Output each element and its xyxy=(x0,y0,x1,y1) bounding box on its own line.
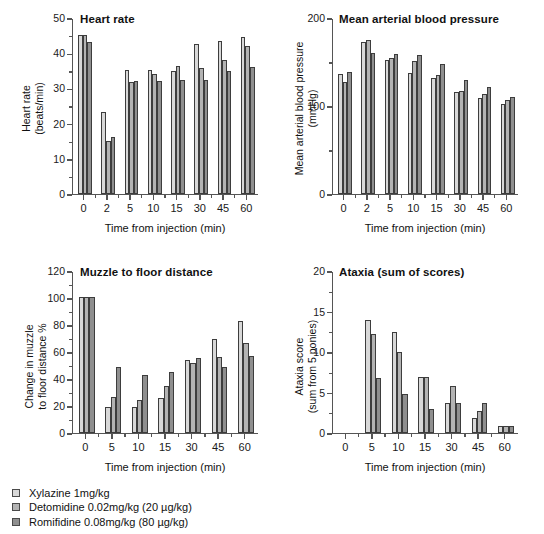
x-axis-tick-label: 0 xyxy=(341,202,347,214)
y-axis-tick-label: 40 xyxy=(53,373,65,386)
x-axis-tick-label: 15 xyxy=(159,441,171,453)
x-axis-tick-label: 30 xyxy=(194,202,206,214)
y-axis-tick-mark xyxy=(329,332,332,333)
bar xyxy=(249,356,254,433)
y-axis-label-ataxia: Ataxia score (sum from 5 ponies) xyxy=(293,305,318,429)
y-axis-tick-mark xyxy=(69,420,72,421)
x-axis-tick-label: 45 xyxy=(212,441,224,453)
x-axis-tick-mark xyxy=(217,434,218,439)
x-axis-tick-mark xyxy=(358,434,359,437)
x-axis-tick-mark xyxy=(138,434,139,439)
y-axis-tick-mark xyxy=(69,71,72,72)
x-axis-tick-label: 45 xyxy=(472,441,484,453)
bar xyxy=(116,367,121,433)
x-axis-tick-mark xyxy=(366,195,367,200)
y-axis-tick-label: 10 xyxy=(53,153,65,166)
bars-container-muzzle-to-floor xyxy=(73,272,258,433)
legend-swatch-romifidine xyxy=(12,518,20,526)
plot-area-muzzle-to-floor: 020406080100120051015304560 xyxy=(72,272,258,434)
y-axis-tick-label: 40 xyxy=(53,47,65,60)
y-axis-tick-mark xyxy=(327,352,332,353)
bar-group xyxy=(105,272,121,433)
y-axis-tick-label: 50 xyxy=(53,12,65,25)
x-axis-tick-mark xyxy=(448,195,449,198)
legend-item: Detomidine 0.02mg/kg (20 µg/kg) xyxy=(12,500,192,515)
bar-group xyxy=(361,19,375,194)
y-axis-tick-mark xyxy=(327,433,332,434)
bar-group xyxy=(79,272,95,433)
x-axis-tick-label: 10 xyxy=(407,202,419,214)
x-axis-tick-mark xyxy=(151,434,152,437)
x-axis-tick-mark xyxy=(384,434,385,437)
bars-container-blood-pressure xyxy=(333,19,518,194)
x-axis-tick-mark xyxy=(222,195,223,200)
bar-group xyxy=(241,19,255,194)
bar xyxy=(347,72,352,193)
bar-group xyxy=(78,19,92,194)
legend-label-romifidine: Romifidine 0.08mg/kg (80 µg/kg) xyxy=(29,516,188,528)
x-axis-tick-mark xyxy=(389,195,390,200)
bar-group xyxy=(185,272,201,433)
y-axis-tick-label: 20 xyxy=(53,118,65,131)
x-axis-tick-mark xyxy=(436,195,437,200)
bar xyxy=(157,81,162,194)
y-axis-tick-mark xyxy=(69,106,72,107)
legend-label-xylazine: Xylazine 1mg/kg xyxy=(29,487,110,499)
bar-group xyxy=(472,272,488,433)
x-axis-tick-label: 30 xyxy=(454,202,466,214)
x-axis-tick-mark xyxy=(343,195,344,200)
bar xyxy=(89,297,94,433)
y-axis-tick-mark xyxy=(67,352,72,353)
bar xyxy=(227,71,232,193)
bar-group xyxy=(212,272,228,433)
x-axis-tick-label: 0 xyxy=(342,441,348,453)
x-axis-tick-mark xyxy=(83,195,84,200)
y-axis-tick-mark xyxy=(67,406,72,407)
bar-group xyxy=(158,272,174,433)
bar xyxy=(429,409,434,432)
plot-area-heart-rate: 010203040500251015304560 xyxy=(72,19,258,195)
y-axis-tick-label: 200 xyxy=(307,12,325,25)
bar xyxy=(222,367,227,433)
plot-area-blood-pressure: 01002000251015304560 xyxy=(332,19,518,195)
y-axis-tick-mark xyxy=(327,312,332,313)
legend-item: Xylazine 1mg/kg xyxy=(12,486,192,501)
x-axis-label-blood-pressure: Time from injection (min) xyxy=(332,222,518,234)
y-axis-tick-mark xyxy=(327,393,332,394)
y-axis-tick-mark xyxy=(67,194,72,195)
x-axis-tick-label: 0 xyxy=(81,202,87,214)
x-axis-tick-mark xyxy=(246,195,247,200)
x-axis-tick-mark xyxy=(191,434,192,439)
x-axis-tick-mark xyxy=(95,195,96,198)
x-axis-tick-label: 5 xyxy=(127,202,133,214)
legend-label-detomidine: Detomidine 0.02mg/kg (20 µg/kg) xyxy=(29,501,192,513)
chart-panel-muzzle-to-floor: Muzzle to floor distance Change in muzzl… xyxy=(0,258,272,483)
bar-group xyxy=(339,272,355,433)
y-axis-label-line1: Mean arterial blood pressure xyxy=(293,34,306,184)
bar-group xyxy=(338,19,352,194)
bar-group xyxy=(418,272,434,433)
x-axis-tick-mark xyxy=(371,434,372,439)
bar xyxy=(509,426,514,432)
y-axis-tick-label: 0 xyxy=(319,188,325,201)
x-axis-tick-mark xyxy=(129,195,130,200)
x-axis-label-ataxia: Time from injection (min) xyxy=(332,461,518,473)
x-axis-tick-mark xyxy=(438,434,439,437)
bar xyxy=(196,358,201,432)
x-axis-tick-mark xyxy=(482,195,483,200)
x-axis-tick-label: 30 xyxy=(445,441,457,453)
y-axis-tick-label: 0 xyxy=(59,188,65,201)
x-axis-tick-mark xyxy=(494,195,495,198)
y-axis-tick-mark xyxy=(69,393,72,394)
x-axis-tick-mark xyxy=(188,195,189,198)
y-axis-tick-mark xyxy=(67,159,72,160)
x-axis-tick-label: 60 xyxy=(499,441,511,453)
x-axis-tick-label: 5 xyxy=(109,441,115,453)
y-axis-tick-mark xyxy=(69,36,72,37)
figure-legend: Xylazine 1mg/kg Detomidine 0.02mg/kg (20… xyxy=(12,486,192,530)
x-axis-tick-mark xyxy=(398,434,399,439)
bar-group xyxy=(431,19,445,194)
x-axis-tick-label: 2 xyxy=(104,202,110,214)
chart-panel-ataxia: Ataxia (sum of scores) Ataxia score (sum… xyxy=(272,258,544,483)
chart-panel-blood-pressure: Mean arterial blood pressure Mean arteri… xyxy=(272,0,544,250)
